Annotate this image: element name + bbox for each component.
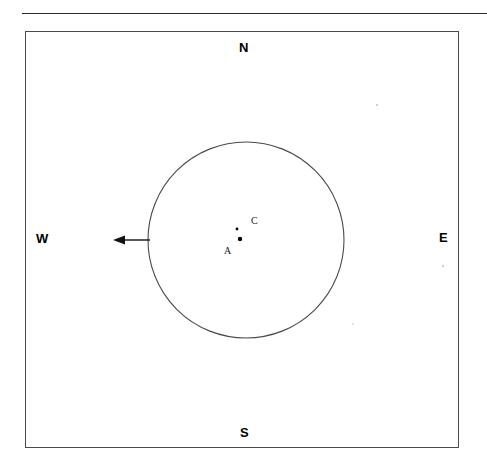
main-circle	[148, 142, 344, 338]
point-label-c: C	[251, 216, 258, 226]
arrow-head-icon	[113, 236, 125, 245]
arrow-group	[113, 236, 150, 245]
scan-speck	[442, 265, 444, 267]
scan-speck	[352, 323, 354, 325]
point-marker-a	[238, 237, 242, 241]
scan-speck	[376, 104, 378, 106]
diagram-canvas	[0, 0, 487, 474]
point-label-a: A	[224, 246, 231, 256]
points-group	[236, 228, 243, 242]
point-marker-c	[236, 228, 239, 231]
diagram-page: N S W E A C	[0, 0, 487, 474]
circle-group	[148, 142, 344, 338]
